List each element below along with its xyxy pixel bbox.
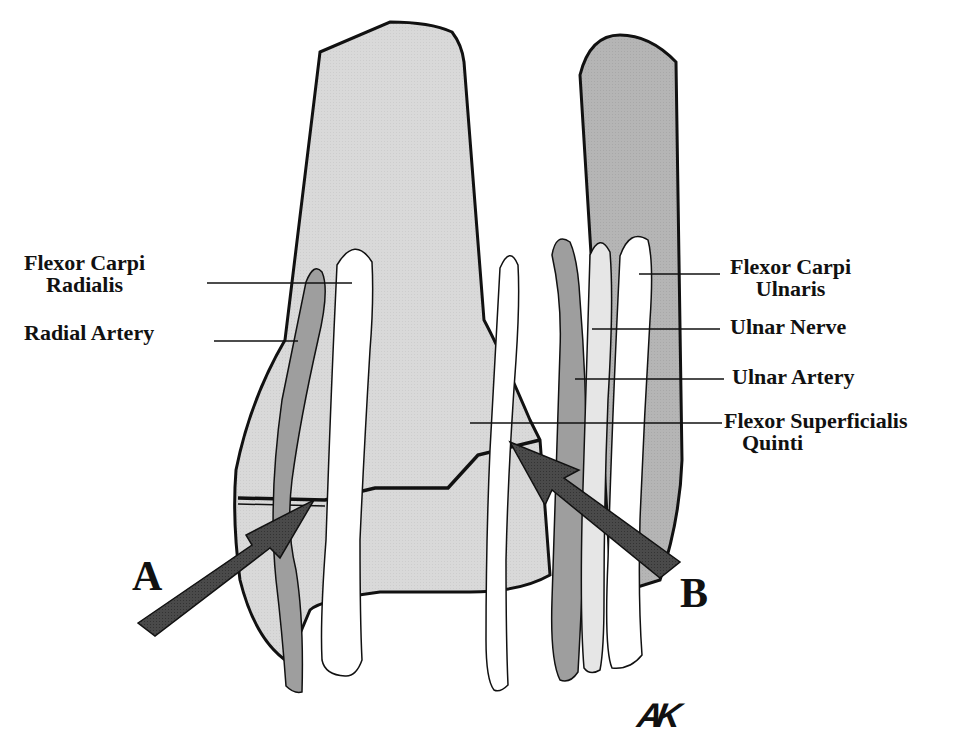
label-line-1: Flexor Carpi <box>730 256 851 278</box>
label-flexor-carpi-ulnaris: Flexor Carpi Ulnaris <box>730 256 851 300</box>
label-line-1: Flexor Carpi <box>24 252 145 274</box>
label-line-1: Flexor Superficialis <box>724 410 908 432</box>
arrow-b-label: B <box>680 572 708 614</box>
label-flexor-carpi-radialis: Flexor Carpi Radialis <box>24 252 145 296</box>
label-radial-artery: Radial Artery <box>24 322 154 344</box>
label-line-2: Ulnaris <box>730 278 851 300</box>
artist-signature: AK <box>635 696 679 735</box>
label-line-2: Radialis <box>24 274 145 296</box>
arrow-a-label: A <box>132 555 162 597</box>
label-ulnar-nerve: Ulnar Nerve <box>730 316 846 338</box>
label-flexor-superficialis-quinti: Flexor Superficialis Quinti <box>724 410 908 454</box>
label-line-2: Quinti <box>724 432 908 454</box>
label-ulnar-artery: Ulnar Artery <box>732 366 854 388</box>
